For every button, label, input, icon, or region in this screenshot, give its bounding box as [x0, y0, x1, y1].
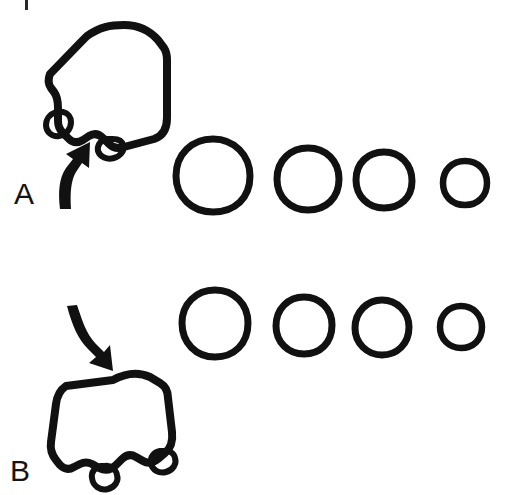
corner-artifact-mark: [25, 0, 28, 10]
figure-background: [0, 0, 509, 495]
panel-b-label: B: [10, 454, 30, 487]
figure-root: A B: [0, 0, 509, 495]
figure-canvas: A B: [0, 0, 509, 495]
panel-a-label: A: [14, 177, 34, 210]
